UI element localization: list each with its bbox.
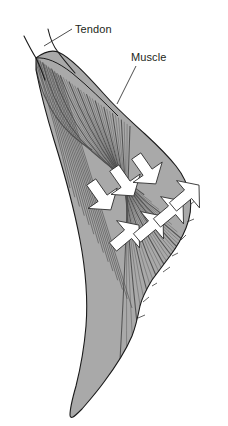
- muscle-leader-line: [117, 66, 136, 104]
- pennate-muscle-diagram: Tendon Muscle: [0, 0, 228, 426]
- muscle-belly-fill: [36, 51, 191, 417]
- muscle-belly-group: [34, 51, 197, 417]
- muscle-label: Muscle: [131, 51, 166, 63]
- fiber-tip: [152, 283, 157, 286]
- fiber-tip: [143, 297, 149, 302]
- figure-root: Tendon Muscle: [0, 0, 228, 426]
- tendon-label: Tendon: [75, 23, 112, 35]
- fiber-tip: [172, 253, 178, 256]
- fiber-tip: [163, 267, 170, 272]
- fiber-tip: [138, 315, 145, 318]
